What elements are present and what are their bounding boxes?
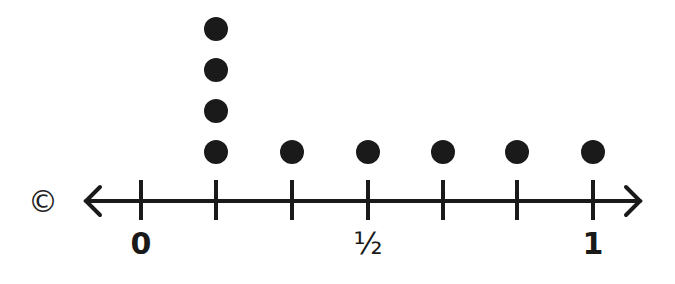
tick-label-one: 1 — [583, 226, 604, 261]
number-line-svg — [0, 0, 675, 284]
data-dot — [204, 140, 228, 164]
tick-label-half: ½ — [353, 226, 382, 261]
data-dot — [505, 140, 529, 164]
data-dot — [204, 17, 228, 41]
data-dot — [431, 140, 455, 164]
dots — [204, 17, 605, 164]
data-dot — [204, 99, 228, 123]
data-dot — [204, 58, 228, 82]
tick-label-zero: 0 — [131, 226, 152, 261]
data-dot — [356, 140, 380, 164]
data-dot — [280, 140, 304, 164]
data-dot — [581, 140, 605, 164]
copyright-icon: © — [28, 184, 58, 219]
